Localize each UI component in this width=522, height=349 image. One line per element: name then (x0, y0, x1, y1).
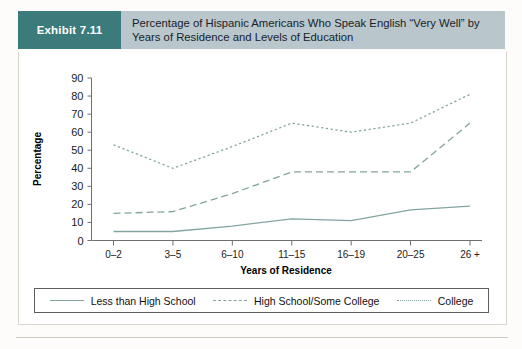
legend-swatch-dashed-icon (213, 300, 247, 301)
series-line-solid (114, 206, 471, 231)
y-axis-tick-label: 20 (71, 198, 83, 210)
legend-item[interactable]: College (397, 295, 474, 307)
y-axis-tick-label: 30 (71, 180, 83, 192)
y-axis-tick-label: 80 (71, 90, 83, 102)
legend-label: College (438, 295, 474, 307)
exhibit-title: Percentage of Hispanic Americans Who Spe… (121, 11, 505, 49)
legend-swatch-dotted-icon (397, 300, 431, 301)
exhibit-page: Exhibit 7.11 Percentage of Hispanic Amer… (0, 0, 522, 349)
legend-label: Less than High School (91, 295, 196, 307)
y-axis-tick-label: 10 (71, 216, 83, 228)
legend-item[interactable]: Less than High School (50, 295, 196, 307)
chart-series-group (114, 94, 471, 231)
chart-card: 0102030405060708090 0–23–56–1011–1516–19… (18, 52, 507, 325)
page-bottom-rule (16, 337, 508, 338)
exhibit-header: Exhibit 7.11 Percentage of Hispanic Amer… (18, 11, 505, 49)
y-axis-tick-label: 70 (71, 108, 83, 120)
y-axis-tick-label: 60 (71, 126, 83, 138)
series-line-dashed (114, 123, 471, 213)
y-axis-ticks: 0102030405060708090 (71, 72, 91, 247)
x-axis-ticks: 0–23–56–1011–1516–1920–2526 + (105, 241, 480, 260)
y-axis-tick-label: 40 (71, 162, 83, 174)
x-axis-tick-label: 3–5 (165, 249, 182, 260)
x-axis-tick-label: 11–15 (278, 249, 306, 260)
x-axis-tick-label: 26 + (460, 249, 480, 260)
y-axis-tick-label: 50 (71, 144, 83, 156)
x-axis-tick-label: 20–25 (397, 249, 425, 260)
x-axis-tick-label: 6–10 (221, 249, 244, 260)
legend-label: High School/Some College (254, 295, 380, 307)
line-chart: 0102030405060708090 0–23–56–1011–1516–19… (19, 52, 506, 324)
legend-swatch-solid-icon (50, 300, 84, 301)
legend-item[interactable]: High School/Some College (213, 295, 380, 307)
y-axis-tick-label: 90 (71, 72, 83, 84)
y-axis-tick-label: 0 (77, 235, 83, 247)
x-axis-tick-label: 16–19 (337, 249, 365, 260)
x-axis-title: Years of Residence (240, 265, 332, 276)
x-axis-tick-label: 0–2 (105, 249, 122, 260)
chart-svg: 0102030405060708090 0–23–56–1011–1516–19… (19, 52, 506, 324)
series-line-dotted (114, 94, 471, 168)
chart-legend: Less than High School High School/Some C… (34, 288, 489, 313)
exhibit-number-tag: Exhibit 7.11 (18, 11, 121, 49)
y-axis-title: Percentage (32, 132, 43, 186)
